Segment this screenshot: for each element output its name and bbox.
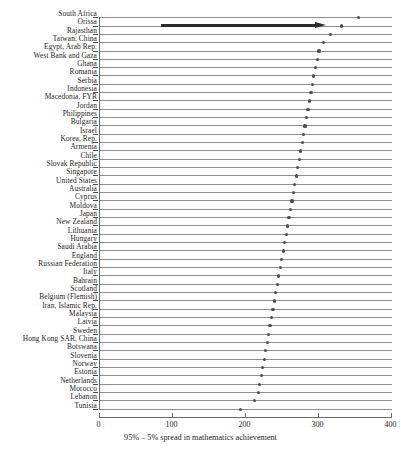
- data-point: [279, 266, 282, 269]
- row-guide-line: [99, 67, 392, 68]
- arrow-shaft: [161, 24, 316, 27]
- row-guide-line: [99, 284, 392, 285]
- row-guide-line: [99, 192, 392, 193]
- data-point: [260, 374, 263, 377]
- data-point: [282, 249, 285, 252]
- row-guide-line: [99, 350, 392, 351]
- data-point: [286, 224, 289, 227]
- x-axis-tick: [318, 413, 319, 417]
- row-guide-line: [99, 300, 392, 301]
- data-point: [287, 216, 290, 219]
- arrow-head: [315, 22, 326, 28]
- x-axis-tick: [99, 413, 100, 417]
- row-guide-line: [99, 34, 392, 35]
- data-point: [306, 108, 309, 111]
- x-axis-tick: [391, 413, 392, 417]
- row-guide-line: [99, 250, 392, 251]
- y-axis-spine: [99, 17, 100, 410]
- row-guide-line: [99, 384, 392, 385]
- row-guide-line: [99, 125, 392, 126]
- x-axis-tick: [245, 413, 246, 417]
- data-point: [308, 99, 311, 102]
- data-point: [258, 383, 261, 386]
- row-guide-line: [99, 92, 392, 93]
- row-guide-line: [99, 400, 392, 401]
- x-axis-tick: [172, 413, 173, 417]
- data-point: [285, 233, 288, 236]
- data-point: [292, 191, 295, 194]
- row-guide-line: [99, 109, 392, 110]
- x-axis-tick-label: 400: [385, 420, 397, 429]
- row-guide-line: [99, 175, 392, 176]
- data-point: [317, 49, 320, 52]
- data-point: [277, 274, 280, 277]
- data-point: [301, 141, 304, 144]
- row-guide-line: [99, 292, 392, 293]
- data-point: [290, 199, 293, 202]
- data-point: [257, 391, 260, 394]
- mathematics-achievement-dot-chart: South AfricaOrissaRajasthanTaiwan, China…: [0, 0, 401, 449]
- data-point: [263, 358, 266, 361]
- row-guide-line: [99, 342, 392, 343]
- data-point: [295, 174, 298, 177]
- row-guide-line: [99, 84, 392, 85]
- row-guide-line: [99, 367, 392, 368]
- row-guide-line: [99, 159, 392, 160]
- data-point: [273, 299, 276, 302]
- row-guide-line: [99, 317, 392, 318]
- row-guide-line: [99, 117, 392, 118]
- row-guide-line: [99, 234, 392, 235]
- row-guide-line: [99, 217, 392, 218]
- plot-area: South AfricaOrissaRajasthanTaiwan, China…: [0, 0, 401, 449]
- data-point: [274, 291, 277, 294]
- data-point: [253, 399, 256, 402]
- row-guide-line: [99, 309, 392, 310]
- row-guide-line: [99, 267, 392, 268]
- data-point: [289, 208, 292, 211]
- chart-row: Tunisia: [0, 405, 401, 415]
- data-point: [264, 349, 267, 352]
- data-point: [312, 74, 315, 77]
- row-guide-line: [99, 225, 392, 226]
- data-point: [280, 258, 283, 261]
- row-guide-line: [99, 325, 392, 326]
- data-point: [340, 24, 343, 27]
- row-guide-line: [99, 242, 392, 243]
- row-guide-line: [99, 17, 392, 18]
- x-axis-tick-label: 100: [166, 420, 178, 429]
- data-point: [283, 241, 286, 244]
- row-guide-line: [99, 359, 392, 360]
- row-tick: [93, 409, 98, 410]
- data-point: [261, 366, 264, 369]
- data-point: [305, 116, 308, 119]
- row-guide-line: [99, 392, 392, 393]
- x-axis-line: [99, 417, 392, 418]
- row-guide-line: [99, 259, 392, 260]
- row-guide-line: [99, 75, 392, 76]
- data-point: [298, 158, 301, 161]
- row-guide-line: [99, 334, 392, 335]
- row-guide-line: [99, 142, 392, 143]
- row-guide-line: [99, 409, 392, 410]
- row-guide-line: [99, 375, 392, 376]
- row-guide-line: [99, 184, 392, 185]
- row-guide-line: [99, 209, 392, 210]
- data-point: [329, 33, 332, 36]
- data-point: [266, 341, 269, 344]
- data-point: [302, 133, 305, 136]
- rajasthan-orissa-highlight-arrow: [161, 22, 326, 29]
- x-axis-tick-label: 0: [97, 420, 101, 429]
- row-guide-line: [99, 200, 392, 201]
- row-guide-line: [99, 59, 392, 60]
- row-guide-line: [99, 134, 392, 135]
- data-point: [270, 316, 273, 319]
- data-point: [309, 91, 312, 94]
- data-point: [268, 324, 271, 327]
- data-point: [314, 66, 317, 69]
- data-point: [311, 83, 314, 86]
- row-guide-line: [99, 275, 392, 276]
- data-point: [357, 16, 360, 19]
- row-guide-line: [99, 167, 392, 168]
- data-point: [267, 333, 270, 336]
- row-guide-line: [99, 150, 392, 151]
